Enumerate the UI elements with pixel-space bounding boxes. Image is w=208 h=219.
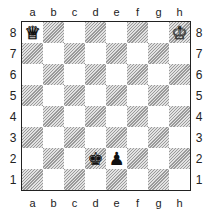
black-pawn-icon[interactable]: ♟ xyxy=(108,148,124,169)
square-g5[interactable] xyxy=(148,85,169,106)
chess-board: ♕♔♚♟ xyxy=(21,21,191,191)
square-g7[interactable] xyxy=(148,43,169,64)
square-h6[interactable] xyxy=(169,64,190,85)
square-f6[interactable] xyxy=(127,64,148,85)
white-king-icon[interactable]: ♔ xyxy=(171,22,187,43)
file-label: e xyxy=(106,5,127,19)
square-g1[interactable] xyxy=(148,169,169,190)
square-b3[interactable] xyxy=(43,127,64,148)
square-b7[interactable] xyxy=(43,43,64,64)
square-c1[interactable] xyxy=(64,169,85,190)
file-label: c xyxy=(64,5,85,19)
square-b4[interactable] xyxy=(43,106,64,127)
rank-label: 5 xyxy=(6,85,20,106)
square-d6[interactable] xyxy=(85,64,106,85)
square-h4[interactable] xyxy=(169,106,190,127)
rank-labels-right: 8 7 6 5 4 3 2 1 xyxy=(192,22,206,190)
square-h8[interactable]: ♔ xyxy=(169,22,190,43)
file-label: d xyxy=(85,5,106,19)
rank-label: 7 xyxy=(192,43,206,64)
square-h5[interactable] xyxy=(169,85,190,106)
square-c3[interactable] xyxy=(64,127,85,148)
rank-label: 6 xyxy=(6,64,20,85)
square-f1[interactable] xyxy=(127,169,148,190)
square-f4[interactable] xyxy=(127,106,148,127)
square-e5[interactable] xyxy=(106,85,127,106)
square-g2[interactable] xyxy=(148,148,169,169)
square-c2[interactable] xyxy=(64,148,85,169)
file-label: g xyxy=(148,5,169,19)
square-h1[interactable] xyxy=(169,169,190,190)
rank-label: 1 xyxy=(6,169,20,190)
rank-label: 3 xyxy=(6,127,20,148)
file-label: f xyxy=(127,196,148,210)
square-e2[interactable]: ♟ xyxy=(106,148,127,169)
square-c8[interactable] xyxy=(64,22,85,43)
square-c5[interactable] xyxy=(64,85,85,106)
file-label: f xyxy=(127,5,148,19)
square-b1[interactable] xyxy=(43,169,64,190)
square-f3[interactable] xyxy=(127,127,148,148)
square-a5[interactable] xyxy=(22,85,43,106)
file-label: d xyxy=(85,196,106,210)
square-h3[interactable] xyxy=(169,127,190,148)
square-b2[interactable] xyxy=(43,148,64,169)
rank-label: 4 xyxy=(192,106,206,127)
square-d5[interactable] xyxy=(85,85,106,106)
square-b5[interactable] xyxy=(43,85,64,106)
rank-label: 1 xyxy=(192,169,206,190)
square-d7[interactable] xyxy=(85,43,106,64)
square-e6[interactable] xyxy=(106,64,127,85)
rank-label: 2 xyxy=(6,148,20,169)
square-c7[interactable] xyxy=(64,43,85,64)
square-f8[interactable] xyxy=(127,22,148,43)
file-label: e xyxy=(106,196,127,210)
file-label: b xyxy=(43,5,64,19)
file-label: a xyxy=(22,196,43,210)
square-f7[interactable] xyxy=(127,43,148,64)
square-h2[interactable] xyxy=(169,148,190,169)
square-b6[interactable] xyxy=(43,64,64,85)
square-a4[interactable] xyxy=(22,106,43,127)
square-a8[interactable]: ♕ xyxy=(22,22,43,43)
rank-label: 2 xyxy=(192,148,206,169)
square-a3[interactable] xyxy=(22,127,43,148)
white-queen-icon[interactable]: ♕ xyxy=(24,22,40,43)
square-f5[interactable] xyxy=(127,85,148,106)
square-d8[interactable] xyxy=(85,22,106,43)
square-d1[interactable] xyxy=(85,169,106,190)
file-label: h xyxy=(169,196,190,210)
square-c6[interactable] xyxy=(64,64,85,85)
file-label: g xyxy=(148,196,169,210)
square-g3[interactable] xyxy=(148,127,169,148)
file-label: c xyxy=(64,196,85,210)
square-e8[interactable] xyxy=(106,22,127,43)
rank-label: 7 xyxy=(6,43,20,64)
square-h7[interactable] xyxy=(169,43,190,64)
rank-label: 8 xyxy=(6,22,20,43)
square-g6[interactable] xyxy=(148,64,169,85)
black-king-icon[interactable]: ♚ xyxy=(87,148,103,169)
square-d2[interactable]: ♚ xyxy=(85,148,106,169)
rank-label: 3 xyxy=(192,127,206,148)
square-c4[interactable] xyxy=(64,106,85,127)
square-a7[interactable] xyxy=(22,43,43,64)
square-d4[interactable] xyxy=(85,106,106,127)
file-label: a xyxy=(22,5,43,19)
square-e3[interactable] xyxy=(106,127,127,148)
file-labels-top: a b c d e f g h xyxy=(22,5,190,19)
square-f2[interactable] xyxy=(127,148,148,169)
square-a2[interactable] xyxy=(22,148,43,169)
square-b8[interactable] xyxy=(43,22,64,43)
rank-label: 6 xyxy=(192,64,206,85)
file-labels-bottom: a b c d e f g h xyxy=(22,196,190,210)
square-a1[interactable] xyxy=(22,169,43,190)
square-a6[interactable] xyxy=(22,64,43,85)
square-g4[interactable] xyxy=(148,106,169,127)
square-e7[interactable] xyxy=(106,43,127,64)
square-g8[interactable] xyxy=(148,22,169,43)
square-e1[interactable] xyxy=(106,169,127,190)
square-e4[interactable] xyxy=(106,106,127,127)
square-d3[interactable] xyxy=(85,127,106,148)
file-label: b xyxy=(43,196,64,210)
